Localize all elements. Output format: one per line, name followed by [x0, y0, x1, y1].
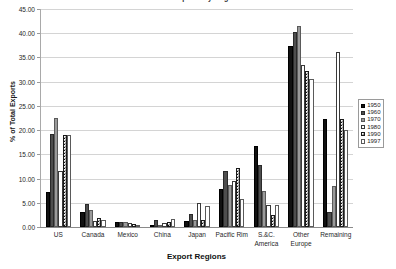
y-axis-tick-label: 5.00	[22, 199, 35, 206]
legend-label: 1970	[367, 116, 380, 123]
legend-swatch-icon	[361, 132, 365, 136]
y-axis-tick	[37, 106, 40, 107]
y-axis-tick-label: 15.00	[19, 151, 35, 158]
bar-group	[145, 9, 180, 227]
y-axis-tick	[37, 203, 40, 204]
x-axis-tick-label: Mexico	[110, 231, 145, 253]
bar	[240, 199, 244, 227]
legend-item[interactable]: 1970	[361, 116, 381, 123]
x-axis-tick-label: Canada	[76, 231, 111, 253]
bar-group	[180, 9, 215, 227]
legend-label: 1960	[367, 109, 380, 116]
legend-item[interactable]: 1960	[361, 109, 381, 116]
x-axis-tick-label: Remaining	[318, 231, 353, 253]
x-axis-title: Export Regions	[40, 252, 353, 261]
y-axis-tick-label: 35.00	[19, 54, 35, 61]
y-axis-tick-label: 10.00	[19, 175, 35, 182]
y-axis-tick-label: 30.00	[19, 78, 35, 85]
bar	[275, 205, 279, 227]
y-axis-tick-label: 20.00	[19, 127, 35, 134]
chart-legend: 195019601970198019901997	[358, 99, 384, 148]
bar-group	[76, 9, 111, 227]
bar-group	[318, 9, 353, 227]
bar	[171, 219, 175, 227]
bar	[67, 135, 71, 227]
y-axis-tick	[37, 227, 40, 228]
y-axis-tick	[37, 57, 40, 58]
legend-label: 1980	[367, 124, 380, 131]
bar	[101, 220, 105, 227]
x-axis-tick-labels: USCanadaMexicoChinaJapanPacific RimS.&C.…	[41, 231, 353, 253]
bar	[309, 79, 313, 227]
bar-groups	[41, 9, 353, 227]
legend-label: 1950	[367, 102, 380, 109]
y-axis-tick-label: 45.00	[19, 6, 35, 13]
bar-group	[249, 9, 284, 227]
y-axis-tick-label: 25.00	[19, 102, 35, 109]
y-axis-tick-label: 40.00	[19, 30, 35, 37]
bar-group	[110, 9, 145, 227]
bar	[136, 225, 140, 227]
x-axis-tick-label: US	[41, 231, 76, 253]
chart-title: U.S. Exports by Region	[0, 0, 396, 1]
x-axis-tick-label: OtherEurope	[284, 231, 319, 253]
y-axis-tick-label: 0.00	[22, 224, 35, 231]
x-axis-line	[40, 227, 353, 228]
bar	[205, 206, 209, 227]
legend-item[interactable]: 1997	[361, 138, 381, 145]
legend-swatch-icon	[361, 125, 365, 129]
legend-item[interactable]: 1990	[361, 131, 381, 138]
y-axis-tick	[37, 130, 40, 131]
x-axis-tick-label: S.&C.America	[249, 231, 284, 253]
x-axis-tick-label: Pacific Rim	[214, 231, 249, 253]
y-axis-title: % of Total Exports	[9, 67, 16, 157]
legend-swatch-icon	[361, 139, 365, 143]
x-axis-tick-label: China	[145, 231, 180, 253]
y-axis-tick	[37, 154, 40, 155]
legend-item[interactable]: 1950	[361, 102, 381, 109]
bar-chart: U.S. Exports by Region % of Total Export…	[0, 0, 396, 269]
y-axis-tick	[37, 179, 40, 180]
y-axis-tick	[37, 33, 40, 34]
legend-swatch-icon	[361, 104, 365, 108]
legend-label: 1997	[367, 138, 380, 145]
y-axis-tick	[37, 82, 40, 83]
legend-label: 1990	[367, 131, 380, 138]
bar	[323, 119, 327, 227]
plot-area: 0.005.0010.0015.0020.0025.0030.0035.0040…	[40, 9, 353, 228]
legend-swatch-icon	[361, 111, 365, 115]
legend-swatch-icon	[361, 118, 365, 122]
bar-group	[41, 9, 76, 227]
bar	[344, 130, 348, 227]
legend-item[interactable]: 1980	[361, 124, 381, 131]
x-axis-tick-label: Japan	[180, 231, 215, 253]
bar-group	[214, 9, 249, 227]
bar-group	[284, 9, 319, 227]
y-axis-tick	[37, 9, 40, 10]
